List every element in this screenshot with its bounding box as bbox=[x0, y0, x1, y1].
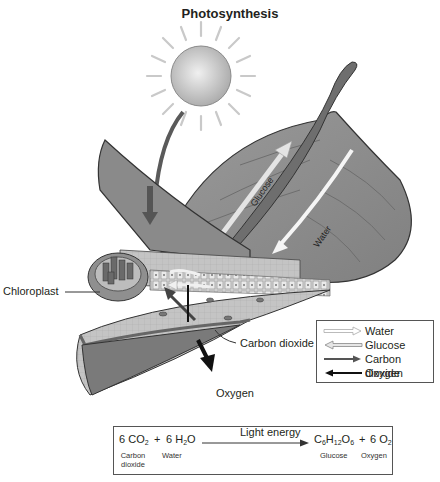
arrow-label: Light energy bbox=[240, 426, 301, 438]
product-o2: 6 O2 bbox=[370, 433, 392, 446]
chloroplast-label: Chloroplast bbox=[3, 285, 59, 297]
legend-label: Oxygen bbox=[365, 366, 403, 380]
chloroplast-icon bbox=[88, 253, 148, 301]
carbon-dioxide-label: Carbon dioxide bbox=[240, 337, 314, 349]
legend-item-water: Water bbox=[317, 324, 433, 338]
reactant-co2: 6 CO2 bbox=[119, 433, 149, 446]
plus-sign: + bbox=[154, 433, 160, 445]
product-glucose-name: Glucose bbox=[320, 451, 348, 460]
reaction-arrow-icon bbox=[202, 439, 310, 447]
legend-label: Glucose bbox=[365, 338, 405, 352]
legend-item-oxygen: Oxygen bbox=[317, 366, 433, 380]
plus-sign: + bbox=[359, 433, 365, 445]
sun-icon bbox=[147, 22, 255, 130]
solid-arrow-right-icon bbox=[323, 354, 363, 364]
legend-item-carbon-dioxide: Carbon dioxide bbox=[317, 352, 433, 366]
product-o2-name: Oxygen bbox=[361, 451, 387, 460]
reactant-h2o: 6 H2O bbox=[166, 433, 196, 446]
hollow-arrow-right-icon bbox=[323, 326, 363, 336]
legend-label: Water bbox=[365, 324, 394, 338]
reactant-co2-name: Carbon dioxide bbox=[118, 451, 148, 469]
legend-item-glucose: Glucose bbox=[317, 338, 433, 352]
hollow-arrow-left-icon bbox=[323, 340, 363, 350]
oxygen-label: Oxygen bbox=[216, 387, 254, 399]
photosynthesis-equation: 6 CO2 + 6 H2O Light energy C6H12O6 + 6 O… bbox=[113, 426, 393, 475]
product-glucose: C6H12O6 bbox=[314, 433, 354, 446]
legend: Water Glucose Carbon dioxide Oxygen bbox=[316, 320, 434, 383]
reactant-h2o-name: Water bbox=[162, 451, 182, 460]
solid-arrow-left-icon bbox=[323, 368, 363, 378]
